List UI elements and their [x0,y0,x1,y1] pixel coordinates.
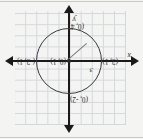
radius-length-label: 3 [90,66,94,74]
point-label-center: (0, 1) [50,57,66,65]
figure-screenshot: (0, -2) (0, 4) (0, 1) (3, 1) (-3, 1) 3 x… [0,0,143,139]
point-label-left: (3, 1) [102,57,118,65]
math-figure: (0, -2) (0, 4) (0, 1) (3, 1) (-3, 1) 3 x… [0,0,143,139]
x-axis-arrow-left-icon [131,57,139,67]
y-axis-label: y [72,15,76,23]
x-axis-label: x [127,51,131,59]
page-rule-top [0,137,143,138]
point-label-right: (-3, 1) [17,57,35,65]
x-axis-arrow-right-icon [5,57,13,67]
point-label-bottom: (0, 4) [68,22,84,30]
page-rule-bottom [0,1,143,2]
point-label-top: (0, -2) [70,95,88,103]
y-axis-arrow-up-icon [64,125,74,133]
y-axis-arrow-down-icon [64,5,74,13]
